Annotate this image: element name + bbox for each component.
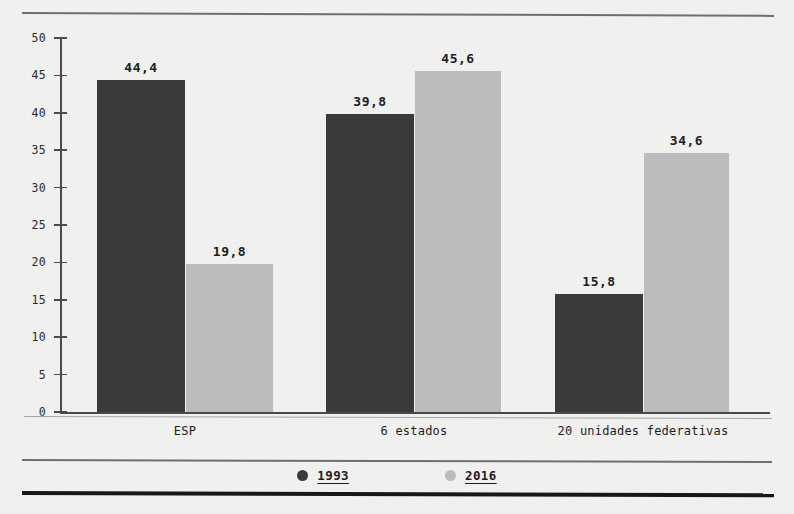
bar-value-label: 19,8	[174, 244, 285, 259]
y-tick-label-20: 20	[16, 255, 46, 267]
bar-1993-6-estados[interactable]	[326, 114, 414, 412]
y-tick-label-text: 10	[18, 330, 46, 344]
y-tick-label-text: 50	[18, 31, 46, 45]
y-tick-label-35: 35	[16, 143, 46, 155]
y-tick-30	[54, 187, 67, 189]
legend-dot-2016	[445, 470, 456, 481]
y-tick-15	[54, 299, 67, 301]
y-tick-label-50: 50	[16, 31, 46, 43]
bar-value-label: 15,8	[543, 274, 655, 289]
y-tick-label-25: 25	[16, 218, 46, 230]
legend-label-1993: 1993	[317, 468, 349, 483]
legend-item-1993[interactable]: 1993	[297, 468, 349, 483]
bar-2016-ESP[interactable]	[186, 264, 273, 412]
y-tick-label-15: 15	[16, 293, 46, 305]
legend-item-2016[interactable]: 2016	[445, 468, 497, 483]
bar-chart-plot-area: 05101520253035404550 44,419,839,845,615,…	[0, 0, 794, 514]
y-tick-label-40: 40	[16, 106, 46, 118]
y-tick-label-30: 30	[16, 181, 46, 193]
y-tick-5	[54, 374, 67, 376]
y-tick-label-5: 5	[16, 368, 46, 380]
chart-legend: 1993 2016	[0, 468, 794, 483]
y-tick-label-text: 35	[18, 143, 46, 157]
y-tick-25	[54, 224, 67, 226]
y-tick-0	[54, 411, 67, 413]
legend-label-2016: 2016	[465, 468, 497, 483]
y-tick-label-45: 45	[16, 68, 46, 80]
y-tick-label-text: 30	[18, 181, 46, 195]
y-tick-20	[54, 262, 67, 264]
clipped-footer-text	[0, 506, 794, 514]
y-tick-label-text: 15	[18, 293, 46, 307]
y-tick-label-text: 40	[18, 106, 46, 120]
chart-page: 05101520253035404550 44,419,839,845,615,…	[0, 0, 794, 514]
y-tick-label-text: 5	[18, 368, 46, 382]
y-axis-line	[60, 38, 62, 414]
bar-2016-20-unidades-federativas[interactable]	[644, 153, 729, 412]
y-tick-10	[54, 336, 67, 338]
category-label-1: 6 estados	[284, 424, 544, 438]
y-tick-label-10: 10	[16, 330, 46, 342]
bar-value-label: 34,6	[632, 133, 741, 148]
legend-dot-1993	[297, 470, 308, 481]
bar-2016-6-estados[interactable]	[415, 71, 501, 412]
category-label-2: 20 unidades federativas	[513, 424, 773, 438]
y-tick-label-text: 45	[18, 68, 46, 82]
y-tick-40	[54, 112, 67, 114]
category-label-0: ESP	[55, 424, 315, 438]
bar-value-label: 44,4	[85, 60, 197, 75]
y-tick-label-text: 20	[18, 255, 46, 269]
x-axis-line	[60, 412, 770, 414]
y-tick-35	[54, 149, 67, 151]
bar-1993-ESP[interactable]	[97, 80, 185, 412]
y-tick-45	[54, 75, 67, 77]
bar-1993-20-unidades-federativas[interactable]	[555, 294, 643, 412]
y-tick-label-text: 25	[18, 218, 46, 232]
bar-value-label: 45,6	[403, 51, 513, 66]
bar-value-label: 39,8	[314, 94, 426, 109]
y-tick-50	[54, 37, 67, 39]
